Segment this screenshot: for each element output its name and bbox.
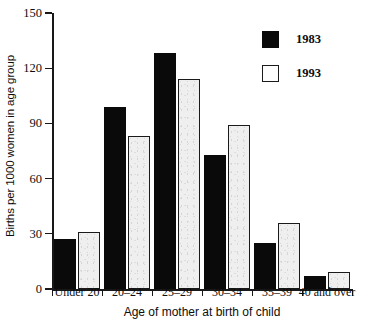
x-axis-tick [202,289,203,296]
x-axis-category-label: Under 20 [55,285,100,300]
y-axis-tick [45,12,52,13]
bar-1983-under-20 [54,239,76,289]
y-axis-tick-label: 0 [4,282,42,297]
bar-1993-under-20 [78,232,100,289]
y-axis-tick-label: 60 [4,171,42,186]
bar-1983-35–39 [254,243,276,289]
bar-1983-30–34 [204,155,226,289]
y-axis-title: Births per 1000 women in age group [0,0,20,292]
x-axis-category-label: 20–24 [112,285,142,300]
x-axis-tick [52,289,53,296]
y-axis-tick [45,233,52,234]
y-axis-title-label: Births per 1000 women in age group [4,55,16,237]
x-axis-category-label: 25–29 [162,285,192,300]
y-axis-tick-label: 30 [4,226,42,241]
bar-1993-30–34 [228,125,250,289]
y-axis-tick-label: 120 [4,61,42,76]
bar-1993-35–39 [278,223,300,289]
legend: 1983 1993 [262,22,362,90]
x-axis-tick [252,289,253,296]
filled-square-icon [262,31,279,48]
legend-label: 1983 [296,32,321,47]
x-axis-category-label: 35–39 [262,285,292,300]
y-axis-tick [45,123,52,124]
x-axis-tick [152,289,153,296]
bar-1993-20–24 [128,136,150,289]
legend-item-1983: 1983 [262,22,362,56]
bar-1983-25–29 [154,53,176,289]
y-axis-tick [45,68,52,69]
outlined-square-icon [262,65,279,82]
y-axis-tick [45,288,52,289]
x-axis-tick [102,289,103,296]
x-axis-category-label: 40 and over [299,285,356,300]
y-axis-tick-label: 90 [4,116,42,131]
bar-1983-20–24 [104,107,126,289]
bar-chart: Births per 1000 women in age group 03060… [0,0,370,330]
bar-1993-25–29 [178,79,200,289]
y-axis-tick-label: 150 [4,6,42,21]
legend-item-1993: 1993 [262,56,362,90]
y-axis-tick [45,178,52,179]
x-axis-category-label: 30–34 [212,285,242,300]
x-axis-title-label: Age of mother at birth of child [52,305,352,319]
legend-label: 1993 [296,66,321,81]
